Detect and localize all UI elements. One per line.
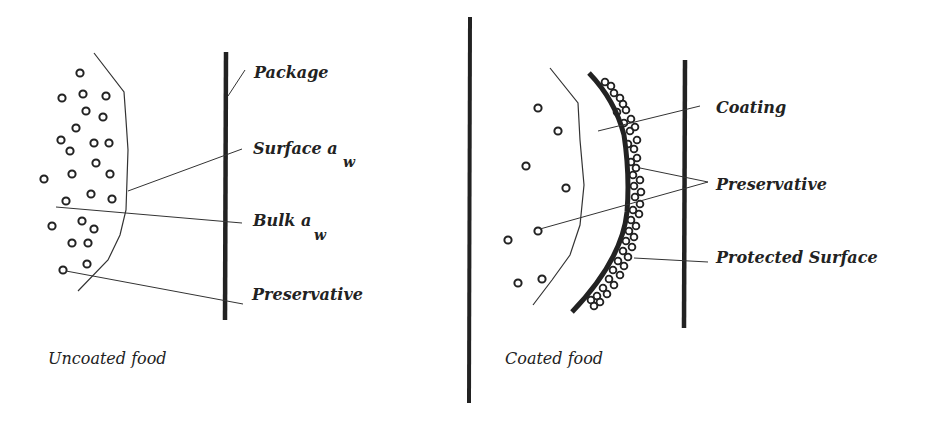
uncoated-food-panel: Package Surface a w Bulk a w Preservativ…: [40, 52, 362, 368]
label-protected-surface: Protected Surface: [715, 248, 878, 267]
food-surface-boundary: [78, 53, 128, 291]
label-bulk-aw: Bulk a: [252, 211, 311, 230]
leader-preservative-a: [640, 168, 708, 182]
leader-preservative: [66, 271, 243, 304]
leader-package: [228, 70, 245, 96]
label-preservative-left: Preservative: [251, 285, 363, 304]
leader-bulk-aw: [56, 207, 242, 223]
label-surface-aw: Surface a: [253, 139, 338, 158]
preservative-particles: [40, 69, 115, 273]
label-bulk-aw-subscript: w: [314, 227, 327, 243]
caption-uncoated-food: Uncoated food: [48, 349, 167, 368]
leader-protected-surface: [634, 258, 708, 262]
panel-divider: [469, 17, 470, 403]
coated-food-panel: Coating Preservative Protected Surface C…: [504, 60, 877, 368]
food-preservative-particles: [504, 104, 569, 286]
package-wall-right: [684, 60, 685, 328]
label-surface-aw-subscript: w: [343, 154, 356, 170]
label-coating: Coating: [716, 98, 786, 117]
label-preservative-right: Preservative: [715, 175, 827, 194]
food-inner-boundary: [533, 68, 584, 305]
package-wall: [225, 52, 226, 320]
caption-coated-food: Coated food: [505, 349, 603, 368]
coating-diagram: Package Surface a w Bulk a w Preservativ…: [0, 0, 928, 425]
label-package: Package: [253, 63, 329, 82]
